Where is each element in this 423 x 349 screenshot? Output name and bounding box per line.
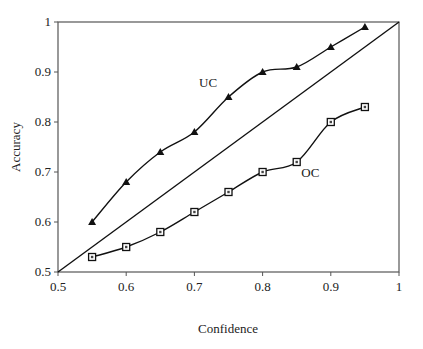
y-tick-label: 1 [45, 14, 52, 29]
diagonal-line [58, 22, 399, 272]
x-tick-label: 0.7 [186, 279, 203, 294]
series-oc [89, 104, 369, 261]
square-marker-dot [261, 171, 263, 173]
square-marker-dot [159, 231, 161, 233]
y-axis-label: Accuracy [8, 122, 23, 172]
triangle-marker [156, 148, 164, 155]
y-tick-label: 0.7 [35, 164, 52, 179]
square-marker-dot [227, 191, 229, 193]
y-tick-label: 0.9 [35, 64, 51, 79]
x-tick-label: 0.5 [50, 279, 66, 294]
square-marker-dot [91, 256, 93, 258]
x-tick-label: 0.8 [254, 279, 270, 294]
y-tick-label: 0.5 [35, 264, 51, 279]
triangle-marker [327, 43, 335, 50]
square-marker-dot [193, 211, 195, 213]
x-axis-label: Confidence [198, 321, 258, 336]
square-marker-dot [125, 246, 127, 248]
annotation-uc: UC [199, 75, 217, 90]
calibration-chart: 0.50.60.70.80.910.50.60.70.80.91 UCOC Co… [0, 0, 423, 349]
x-tick-label: 0.9 [323, 279, 339, 294]
series-line [92, 107, 365, 257]
x-tick-label: 1 [396, 279, 403, 294]
y-tick-label: 0.8 [35, 114, 51, 129]
series-diagonal [58, 22, 399, 272]
square-marker-dot [330, 121, 332, 123]
triangle-marker [361, 23, 369, 30]
y-tick-label: 0.6 [35, 214, 52, 229]
x-tick-label: 0.6 [118, 279, 135, 294]
square-marker-dot [296, 161, 298, 163]
series-group: UCOC [58, 22, 399, 272]
square-marker-dot [364, 106, 366, 108]
annotation-oc: OC [301, 165, 319, 180]
